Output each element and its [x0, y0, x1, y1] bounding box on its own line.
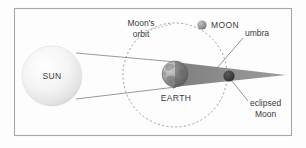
- umbra-label: umbra: [245, 28, 269, 38]
- lunar-eclipse-figure: SUN EARTH MOON umbra Moon's orbit eclips…: [0, 0, 306, 148]
- earth-globe: [162, 61, 188, 87]
- sun-label: SUN: [42, 71, 61, 81]
- moon-label: MOON: [211, 20, 239, 30]
- eclipsed-moon-label-line1: eclipsed: [250, 98, 281, 108]
- moon-orbit-label-line2: orbit: [133, 29, 150, 39]
- moon-sphere: [197, 20, 206, 29]
- diagram-canvas: SUN EARTH MOON umbra Moon's orbit eclips…: [0, 0, 306, 148]
- moon-orbit-label-line1: Moon's: [127, 18, 154, 28]
- earth-label: EARTH: [161, 93, 192, 103]
- umbra-label-leader: [217, 38, 243, 68]
- eclipsed-moon-sphere: [223, 70, 234, 81]
- eclipsed-moon-label-leader: [232, 81, 248, 101]
- eclipsed-moon-label-line2: Moon: [255, 109, 277, 119]
- sun-ray-upper: [76, 53, 176, 62]
